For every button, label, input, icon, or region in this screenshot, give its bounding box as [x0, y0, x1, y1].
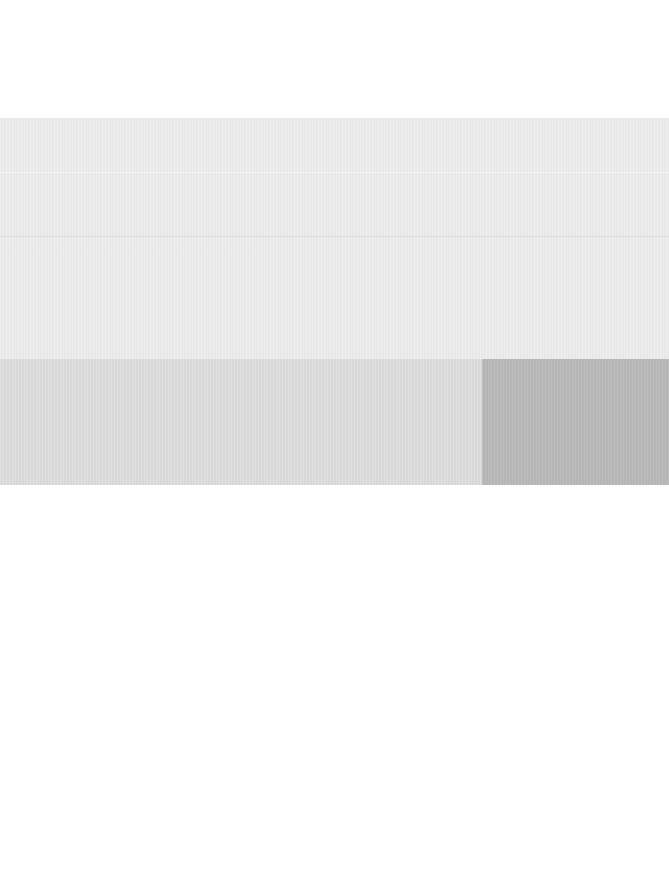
- header-area: [0, 0, 669, 118]
- gray-strip: [0, 359, 669, 485]
- gray-panel: [0, 118, 669, 359]
- strip-left-block[interactable]: [0, 359, 482, 485]
- strip-right-block[interactable]: [482, 359, 669, 485]
- panel-row-2[interactable]: [0, 172, 669, 237]
- panel-row-3[interactable]: [0, 236, 669, 360]
- content-area: [0, 485, 669, 889]
- page: [0, 0, 669, 889]
- panel-row-1[interactable]: [0, 118, 669, 172]
